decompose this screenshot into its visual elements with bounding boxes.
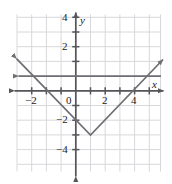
y-tick-label-4: 4: [62, 12, 68, 23]
y-tick-label--2: −2: [56, 114, 68, 125]
coordinate-plane-figure: −2 0 2 4 4 2 −2 −4 y x: [0, 0, 172, 184]
x-axis-label: x: [152, 79, 157, 90]
y-tick-label--4: −4: [56, 144, 68, 155]
x-tick-label-4: 4: [131, 95, 137, 106]
x-tick-label--2: −2: [25, 95, 37, 106]
y-axis-label: y: [80, 15, 85, 26]
grid-lines: [17, 15, 161, 172]
x-tick-label-0: 0: [66, 95, 72, 106]
axis-lines: [15, 13, 164, 177]
series-absolute-value: [17, 59, 164, 135]
y-tick-label-2: 2: [62, 41, 68, 52]
graph-canvas: [0, 0, 172, 184]
x-tick-label-2: 2: [102, 95, 108, 106]
